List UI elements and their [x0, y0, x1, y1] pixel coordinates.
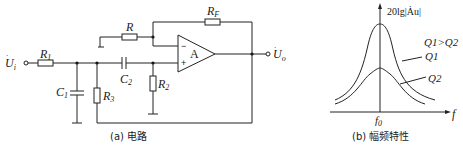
y-axis-arrow-icon	[378, 3, 382, 9]
c1-label: C1	[56, 85, 68, 100]
resistor-r2	[150, 76, 156, 91]
resistor-r3	[94, 88, 100, 103]
legend-condition: Q1>Q2	[424, 36, 459, 48]
y-axis-label: 20lg|Ȧu|	[387, 6, 421, 17]
r3-label: R3	[102, 89, 114, 104]
input-dot-icon: ·	[6, 51, 8, 60]
opamp-label: A	[190, 47, 199, 61]
curve-q2-label: Q2	[428, 72, 442, 84]
x-axis-label: f	[452, 107, 457, 121]
resistor-rf	[205, 19, 220, 25]
r2-label: R2	[157, 77, 169, 92]
output-terminal	[266, 52, 270, 56]
rf-label: RF	[206, 4, 219, 19]
output-dot-icon: ·	[274, 43, 276, 52]
r-label: R	[125, 20, 134, 34]
opamp-plus: +	[181, 58, 186, 68]
curve-q1-label: Q1	[425, 50, 438, 62]
caption-b: (b) 幅频特性	[352, 130, 409, 142]
x-tick-f0: f0	[375, 114, 382, 128]
frequency-response-chart: 20lg|Ȧu| f f0 Q1>Q2 Q1 Q2 (b) 幅频特性	[330, 3, 459, 142]
resistor-r	[122, 34, 137, 40]
curve-q1	[335, 24, 435, 100]
diagram-canvas: Ui · R1 C1 R3 C2 R2	[0, 0, 463, 150]
r1-label: R1	[39, 47, 51, 62]
opamp-minus: −	[181, 41, 186, 51]
caption-a: (a) 电路	[110, 130, 147, 142]
circuit: Ui · R1 C1 R3 C2 R2	[5, 4, 286, 142]
input-terminal	[24, 61, 28, 65]
c2-label: C2	[120, 72, 132, 87]
x-axis-arrow-icon	[445, 110, 451, 114]
